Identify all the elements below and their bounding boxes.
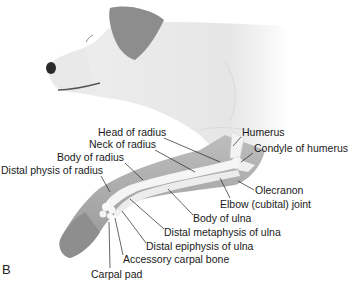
label-elbow-joint: Elbow (cubital) joint bbox=[220, 198, 311, 210]
label-distal-epiphysis-of-ulna: Distal epiphysis of ulna bbox=[146, 240, 253, 252]
label-carpal-pad: Carpal pad bbox=[91, 268, 142, 280]
label-condyle-of-humerus: Condyle of humerus bbox=[254, 142, 348, 154]
panel-letter: B bbox=[2, 262, 11, 277]
label-body-of-ulna: Body of ulna bbox=[193, 212, 251, 224]
dog-nose bbox=[46, 62, 56, 74]
label-humerus: Humerus bbox=[242, 126, 285, 138]
label-neck-of-radius: Neck of radius bbox=[89, 138, 156, 150]
dog-eye bbox=[86, 35, 93, 42]
label-body-of-radius: Body of radius bbox=[57, 151, 124, 163]
label-head-of-radius: Head of radius bbox=[98, 126, 166, 138]
label-olecranon: Olecranon bbox=[255, 184, 303, 196]
label-distal-physis-of-radius: Distal physis of radius bbox=[1, 164, 103, 176]
label-distal-metaphysis-of-ulna: Distal metaphysis of ulna bbox=[164, 226, 281, 238]
label-accessory-carpal-bone: Accessory carpal bone bbox=[123, 253, 229, 265]
anatomy-illustration bbox=[0, 0, 351, 281]
